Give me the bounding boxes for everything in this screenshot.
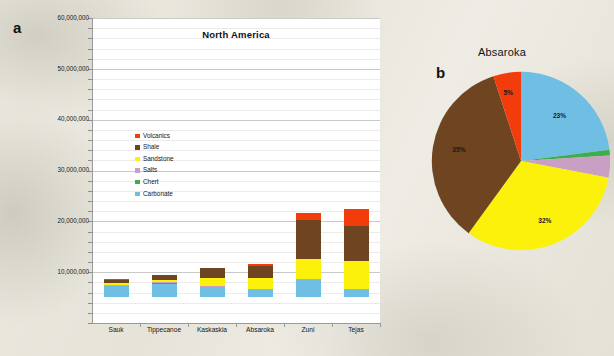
legend-swatch-salts bbox=[135, 168, 140, 173]
bar-group bbox=[284, 27, 332, 340]
legend-label: Volcanics bbox=[143, 133, 170, 139]
bar-segment-shale bbox=[248, 266, 273, 278]
bar-segment-shale bbox=[344, 226, 369, 261]
bar-segment-carbonate bbox=[248, 290, 273, 297]
bar-segment-volcanics bbox=[344, 209, 369, 226]
y-axis-tick-label: 40,000,000 bbox=[27, 116, 89, 122]
legend-swatch-sandstone bbox=[135, 157, 140, 162]
bar-segment-sandstone bbox=[200, 278, 225, 286]
panel-a-label: a bbox=[13, 19, 21, 36]
legend-swatch-shale bbox=[135, 145, 140, 150]
panel-a-bar-chart: a North America 60,000,00050,000,00040,0… bbox=[35, 10, 385, 340]
bar-segment-sandstone bbox=[248, 278, 273, 289]
legend-item-salts: Salts bbox=[135, 165, 174, 177]
legend-swatch-carbonate bbox=[135, 192, 140, 197]
bar-group bbox=[332, 27, 380, 340]
legend-label: Chert bbox=[143, 179, 159, 185]
pie-percent-label-shale: 35% bbox=[452, 147, 465, 154]
y-axis-tick-label: 50,000,000 bbox=[27, 66, 89, 72]
bar-segment-sandstone bbox=[296, 259, 321, 279]
stacked-bar bbox=[248, 264, 273, 297]
x-tick-mark bbox=[380, 323, 381, 327]
panel-b-pie-chart: b Absaroka 23%32%35%5% bbox=[390, 8, 614, 338]
pie-slices bbox=[432, 72, 610, 250]
pie-chart-svg bbox=[430, 70, 612, 252]
legend-item-volcanics: Volcanics bbox=[135, 130, 174, 142]
pie-percent-label-carbonate: 23% bbox=[553, 113, 566, 120]
y-axis-tick-label: 10,000,000 bbox=[27, 269, 89, 275]
legend-label: Sandstone bbox=[143, 156, 174, 162]
legend-item-carbonate: Carbonate bbox=[135, 188, 174, 200]
pie-percent-label-volcanics: 5% bbox=[503, 90, 513, 97]
bar-segment-carbonate bbox=[344, 290, 369, 297]
stacked-bar bbox=[104, 279, 129, 297]
bar-chart-legend: VolcanicsShaleSandstoneSaltsChertCarbona… bbox=[135, 130, 174, 200]
bar-segment-shale bbox=[200, 268, 225, 278]
bar-segment-sandstone bbox=[344, 261, 369, 289]
legend-label: Shale bbox=[143, 144, 159, 150]
x-axis-tick-label: Tejas bbox=[327, 326, 385, 333]
legend-swatch-volcanics bbox=[135, 134, 140, 139]
legend-label: Carbonate bbox=[143, 191, 173, 197]
y-axis-tick-label: 60,000,000 bbox=[27, 15, 89, 21]
bar-segment-carbonate bbox=[296, 280, 321, 297]
legend-item-chert: Chert bbox=[135, 176, 174, 188]
bar-group bbox=[92, 27, 140, 340]
y-axis-tick-label: 30,000,000 bbox=[27, 167, 89, 173]
bar-segment-shale bbox=[296, 220, 321, 259]
bar-segment-carbonate bbox=[104, 286, 129, 297]
stacked-bar bbox=[344, 209, 369, 297]
legend-label: Salts bbox=[143, 167, 157, 173]
y-axis-tick-label: 20,000,000 bbox=[27, 218, 89, 224]
stacked-bar bbox=[152, 275, 177, 297]
bar-group bbox=[188, 27, 236, 340]
bar-segment-volcanics bbox=[296, 213, 321, 220]
legend-item-shale: Shale bbox=[135, 142, 174, 154]
bar-group bbox=[236, 27, 284, 340]
pie-percent-label-sandstone: 32% bbox=[538, 218, 551, 225]
legend-item-sandstone: Sandstone bbox=[135, 153, 174, 165]
pie-chart-wrap bbox=[430, 70, 612, 252]
gridline-major bbox=[92, 18, 380, 19]
stacked-bar bbox=[296, 213, 321, 297]
stacked-bar bbox=[200, 268, 225, 298]
pie-chart-title: Absaroka bbox=[390, 46, 614, 58]
legend-swatch-chert bbox=[135, 180, 140, 185]
bar-segment-carbonate bbox=[200, 287, 225, 297]
bar-segment-carbonate bbox=[152, 284, 177, 297]
